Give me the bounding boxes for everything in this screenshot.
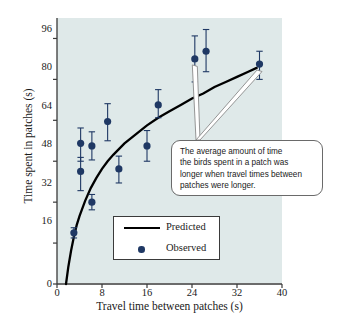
legend-label: Predicted: [166, 221, 206, 232]
x-tick-label: 8: [89, 287, 115, 298]
callout-line-2: the birds spent in a patch was: [180, 157, 315, 168]
observed-point: [202, 30, 209, 72]
callout-line-4: patches were longer.: [180, 180, 315, 191]
callout-line-1: The average amount of time: [180, 146, 315, 157]
callout-box: The average amount of time the birds spe…: [171, 140, 323, 196]
observed-point: [104, 104, 111, 141]
observed-point: [88, 194, 95, 209]
legend-dot-swatch: [120, 238, 164, 260]
observed-point: [88, 132, 95, 160]
y-tick-label: 96: [26, 23, 52, 34]
callout-leader-lines: [192, 65, 262, 140]
x-tick-label: 40: [269, 287, 295, 298]
legend: Predicted Observed: [113, 216, 220, 260]
x-tick-label: 32: [224, 287, 250, 298]
legend-item-observed: Observed: [114, 238, 221, 260]
observed-point: [77, 157, 84, 190]
y-axis-title: Time spent in patches (s): [22, 56, 34, 236]
x-tick-label: 16: [134, 287, 160, 298]
x-tick-label: 24: [179, 287, 205, 298]
observed-point: [77, 128, 84, 161]
legend-line-swatch: [120, 217, 164, 239]
legend-label: Observed: [166, 242, 206, 253]
observed-points: [70, 30, 263, 238]
observed-point: [143, 131, 150, 162]
x-axis-title: Travel time between patches (s): [57, 300, 282, 312]
callout-line-3: longer when travel times between: [180, 169, 315, 180]
legend-item-predicted: Predicted: [114, 217, 221, 239]
observed-point: [155, 90, 162, 118]
observed-point: [115, 156, 122, 183]
x-tick-label: 0: [44, 287, 70, 298]
figure-root: 96 80 64 48 32 16 0 0 8 16 24 32 40 Trav…: [0, 0, 348, 327]
